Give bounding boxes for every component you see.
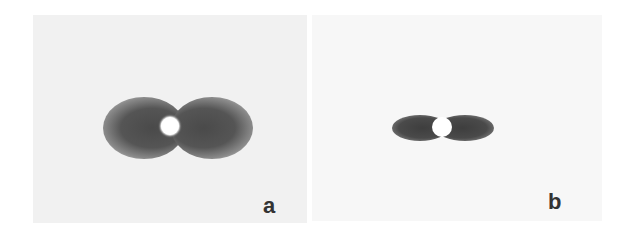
central-bright-spot (161, 117, 179, 135)
figure-panel-b: b (312, 15, 602, 221)
central-bright-spot (432, 117, 452, 137)
intensity-lobe-right (171, 97, 253, 159)
panel-label-a: a (263, 195, 275, 217)
panel-label-b: b (548, 191, 561, 213)
figure-panel-a: a (33, 15, 307, 223)
